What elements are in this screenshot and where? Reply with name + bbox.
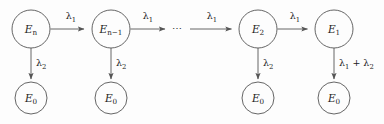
edge-label-lambda2-En-to-E0: λ2: [36, 57, 46, 71]
state-transition-diagram: En En−1 E2 E1 E0 E0 E0 E0 λ1 λ1 λ1 λ1: [0, 0, 384, 124]
edge-label-lambda1-plus-lambda2-E1-to-E0: λ1 + λ2: [339, 57, 374, 71]
edge-label-lambda1-E2-to-E1: λ1: [290, 10, 300, 24]
edge-label-lambda2-En-minus-1-to-E0: λ2: [116, 57, 126, 71]
edge-label-lambda1-En-to-En-minus-1: λ1: [66, 10, 76, 24]
edge-label-lambda2-E2-to-E0: λ2: [263, 57, 273, 71]
ellipsis-label: ⋯: [172, 23, 183, 34]
edge-label-lambda1-ellipsis-to-E2: λ1: [207, 10, 217, 24]
diagram-canvas: En En−1 E2 E1 E0 E0 E0 E0 λ1 λ1 λ1 λ1: [0, 0, 384, 124]
edge-label-lambda1-En-minus-1-to-ellipsis: λ1: [143, 10, 153, 24]
